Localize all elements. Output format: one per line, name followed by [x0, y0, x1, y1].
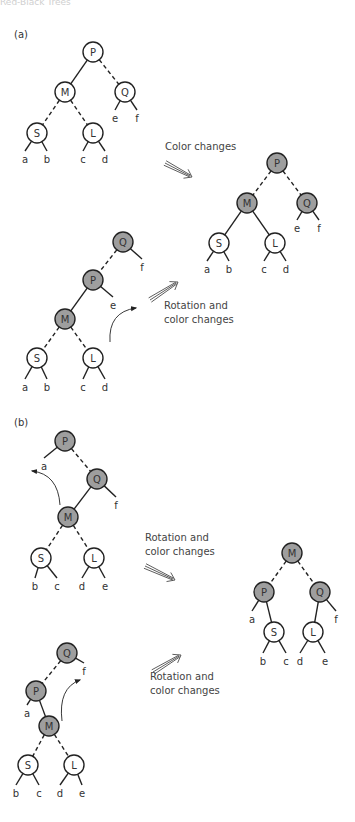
tree-node-S: S: [27, 348, 47, 368]
tree-node-P: P: [267, 153, 287, 173]
tree-b-before-rotation-2: fabcdeQPMSL: [13, 643, 86, 799]
subtree-edge: [279, 641, 286, 653]
subtree-edge: [25, 367, 32, 379]
tree-node-M: M: [58, 507, 78, 527]
subtree-label: e: [322, 656, 328, 667]
tree-node-Q: Q: [115, 82, 135, 102]
subtree-label: f: [317, 223, 321, 234]
subtree-label: b: [226, 264, 232, 275]
tree-node-L: L: [303, 622, 323, 642]
node-label: L: [71, 760, 77, 771]
subtree-label: b: [44, 154, 50, 165]
caption-text: Color changes: [165, 141, 236, 152]
subtree-edge: [313, 211, 319, 220]
tree-node-P: P: [254, 582, 274, 602]
tree-node-Q: Q: [57, 643, 77, 663]
subtree-edge: [207, 251, 213, 261]
tree-node-M: M: [282, 543, 302, 563]
subtree-label: f: [140, 262, 144, 273]
tree-node-L: L: [83, 348, 103, 368]
tree-node-L: L: [64, 755, 84, 775]
subtree-label: a: [204, 264, 210, 275]
node-label: P: [33, 686, 39, 697]
subtree-edge: [60, 773, 68, 785]
subtree-edge: [115, 101, 120, 110]
red-link-edge: [54, 734, 68, 756]
tree-node-M: M: [39, 716, 59, 736]
subtree-edge: [326, 600, 336, 611]
caption-text: Rotation and: [145, 532, 209, 543]
rotation-arrow-icon: [61, 680, 80, 721]
node-label: M: [45, 721, 54, 732]
node-label: Q: [316, 587, 324, 598]
red-link-edge: [99, 60, 119, 84]
tree-node-S: S: [18, 755, 38, 775]
black-link-edge: [253, 211, 270, 235]
subtree-edge: [83, 142, 88, 151]
subtree-edge: [33, 774, 39, 785]
subtree-label: f: [135, 113, 139, 124]
red-link-edge: [253, 171, 271, 195]
subtree-edge: [78, 774, 82, 785]
node-label: M: [61, 314, 70, 325]
node-label: P: [274, 158, 280, 169]
caption-text: Rotation and: [164, 300, 228, 311]
subtree-label: f: [82, 666, 86, 677]
black-link-edge: [39, 700, 45, 716]
subtree-label: d: [102, 382, 108, 393]
subtree-edge: [264, 252, 270, 261]
subtree-label: b: [260, 656, 266, 667]
tree-node-P: P: [83, 42, 103, 62]
node-label: L: [90, 353, 96, 364]
subtree-edge: [130, 249, 142, 259]
tree-node-P: P: [55, 431, 75, 451]
subtree-edge: [99, 567, 105, 578]
subtree-edge: [104, 486, 116, 497]
subtree-label: f: [334, 614, 338, 625]
panel-labels: (a)(b): [14, 29, 28, 428]
tree-node-L: L: [265, 233, 285, 253]
node-label: Q: [63, 648, 71, 659]
red-link-edge: [283, 171, 301, 195]
subtree-edge: [16, 774, 23, 785]
red-link-edge: [71, 449, 90, 472]
tree-node-L: L: [83, 123, 103, 143]
tree-a-result: abcdefPMQSL: [204, 153, 321, 275]
subtree-label: d: [283, 264, 289, 275]
subtree-label: d: [297, 656, 303, 667]
subtree-edge: [41, 367, 47, 379]
node-label: L: [272, 238, 278, 249]
tree-a-before-rotation: feabcdQPMSL: [22, 232, 144, 393]
subtree-label: d: [79, 581, 85, 592]
caption-text: color changes: [145, 546, 215, 557]
caption-text: color changes: [150, 685, 220, 696]
tree-b-result: afbcdeMPQSL: [249, 543, 338, 667]
tree-node-Q: Q: [87, 469, 107, 489]
subtree-label: a: [41, 461, 47, 472]
node-label: S: [38, 553, 44, 564]
node-label: L: [310, 627, 316, 638]
tree-node-M: M: [55, 309, 75, 329]
subtree-edge: [42, 142, 47, 151]
subtree-label: c: [54, 581, 60, 592]
subtree-label: c: [283, 656, 289, 667]
red-link-edge: [46, 525, 62, 549]
subtree-edge: [297, 212, 302, 220]
red-link-edge: [42, 661, 60, 684]
node-label: L: [90, 128, 96, 139]
black-link-edge: [315, 602, 319, 622]
caption-text: Rotation and: [150, 671, 214, 682]
tree-node-S: S: [27, 123, 47, 143]
tree-a-before-color-change: abcdefPMQSL: [22, 42, 139, 165]
node-label: S: [34, 353, 40, 364]
tree-node-M: M: [237, 193, 257, 213]
subtree-edge: [318, 641, 325, 653]
tree-node-S: S: [264, 622, 284, 642]
tree-node-Q: Q: [297, 193, 317, 213]
node-label: M: [61, 87, 70, 98]
node-label: M: [288, 548, 297, 559]
subtree-edge: [131, 100, 137, 110]
panel-label: (a): [14, 29, 28, 40]
subtree-edge: [44, 447, 57, 458]
subtree-label: d: [57, 788, 63, 799]
